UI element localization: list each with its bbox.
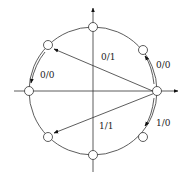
label-1-1: 1/1 <box>99 121 113 131</box>
state-circle-diagram: 0/1 0/0 0/0 1/0 1/1 <box>0 0 189 182</box>
node-270 <box>89 151 98 160</box>
node-0 <box>153 87 162 96</box>
node-135 <box>44 41 53 50</box>
label-0-0-left: 0/0 <box>40 70 55 80</box>
node-45 <box>139 46 148 55</box>
node-315 <box>139 133 148 142</box>
label-1-0: 1/0 <box>156 118 171 128</box>
label-0-1: 0/1 <box>101 52 115 62</box>
node-225 <box>44 133 53 142</box>
node-90 <box>89 23 98 32</box>
label-0-0-right: 0/0 <box>156 60 171 70</box>
node-180 <box>25 87 34 96</box>
